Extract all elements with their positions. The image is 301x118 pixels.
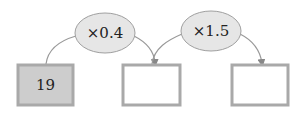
operation-bubble-1: ×0.4 — [75, 13, 135, 53]
operation-bubble-2: ×1.5 — [181, 11, 241, 51]
operation-label-2: ×1.5 — [193, 22, 229, 40]
diagram-canvas: ×0.4 ×1.5 19 — [0, 0, 301, 118]
answer-box-2[interactable] — [123, 65, 180, 105]
flow-diagram: ×0.4 ×1.5 19 — [0, 0, 301, 118]
value-box-1-text: 19 — [36, 76, 55, 94]
answer-box-3[interactable] — [232, 65, 288, 105]
operation-label-1: ×0.4 — [87, 24, 123, 42]
value-box-1: 19 — [18, 65, 73, 105]
